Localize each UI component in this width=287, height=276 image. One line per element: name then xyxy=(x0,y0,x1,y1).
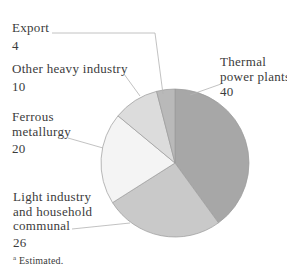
footnote: a Estimated. xyxy=(13,254,64,266)
label-light-text-line3: communal xyxy=(13,219,92,234)
leader-line-thermal-power-plants xyxy=(190,84,221,95)
footnote-text: Estimated. xyxy=(19,255,64,266)
label-light-value: 26 xyxy=(13,236,92,251)
pie-chart-figure: Export 4 Other heavy industry 10 Thermal… xyxy=(0,0,287,276)
label-ferrous-text-line1: Ferrous xyxy=(12,110,71,125)
label-export-text: Export xyxy=(12,21,49,36)
label-export-value: 4 xyxy=(12,39,49,54)
label-export: Export 4 xyxy=(12,21,49,53)
label-light-text-line2: and household xyxy=(13,205,92,220)
label-light-text-line1: Light industry xyxy=(13,190,92,205)
leader-line-ferrous-metallurgy xyxy=(68,138,103,148)
label-thermal-value: 40 xyxy=(220,85,287,100)
label-thermal-text-line2: power plants xyxy=(220,70,287,85)
label-thermal-text-line1: Thermal xyxy=(220,55,287,70)
footnote-marker: a xyxy=(13,254,16,262)
label-other-heavy-industry-text: Other heavy industry xyxy=(12,62,128,77)
label-other-heavy-industry: Other heavy industry 10 xyxy=(12,62,128,94)
label-ferrous-metallurgy: Ferrous metallurgy 20 xyxy=(12,110,71,157)
label-ferrous-value: 20 xyxy=(12,142,71,157)
label-light-industry: Light industry and household communal 26 xyxy=(13,190,92,250)
label-ferrous-text-line2: metallurgy xyxy=(12,125,71,140)
label-thermal-power-plants: Thermal power plants 40 xyxy=(220,55,287,100)
label-other-heavy-industry-value: 10 xyxy=(12,80,128,95)
pie-slices xyxy=(101,89,249,237)
